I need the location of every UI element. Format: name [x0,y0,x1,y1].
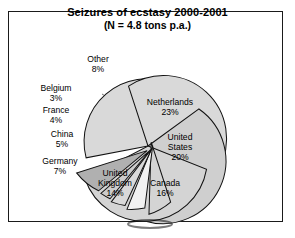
slice-value-united-states: 20% [171,152,189,162]
slice-label-canada: Canada [150,178,180,188]
slice-value-other: 8% [92,64,105,74]
slice-value-germany: 7% [54,166,67,176]
slice-label-united-states-line1: United [168,132,193,142]
slice-label-germany: Germany [42,156,78,166]
slice-label-united-kingdom-line1: United [103,168,128,178]
slice-label-united-kingdom-line2: Kingdom [98,178,132,188]
slice-value-france: 4% [50,115,63,125]
slice-label-netherlands: Netherlands [147,97,193,107]
slice-label-other: Other [87,54,109,64]
pie-chart: Netherlands 23% United States 20% Canada… [0,0,295,238]
slice-value-netherlands: 23% [161,107,179,117]
slice-label-united-states-line2: States [168,142,192,152]
pie-chart-svg: Netherlands 23% United States 20% Canada… [0,0,295,238]
slice-value-belgium: 3% [50,93,63,103]
slice-value-china: 5% [56,139,69,149]
slice-label-china: China [51,129,74,139]
slice-value-united-kingdom: 14% [106,188,124,198]
slice-label-belgium: Belgium [40,83,71,93]
slice-value-canada: 16% [156,188,174,198]
slice-label-france: France [43,105,70,115]
